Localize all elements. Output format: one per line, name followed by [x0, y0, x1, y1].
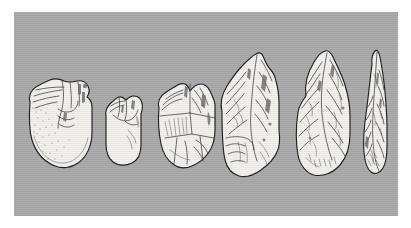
artefact-1-shadow-b [82, 92, 85, 103]
artefact-1-rounded-core-chopper [29, 79, 92, 168]
artefact-5-shadow-dot-b [309, 137, 312, 140]
artefact-drawing-canvas [14, 12, 398, 216]
artefact-1-shadow-dot [83, 84, 87, 88]
artefact-3-faceted-angular-core [158, 84, 215, 168]
artefact-2-outline [106, 96, 143, 165]
artefact-4-shadow-dot-b [263, 139, 266, 142]
artefact-4-shadow-dot-a [268, 122, 271, 125]
artefact-5-teardrop-handaxe [297, 51, 351, 176]
artefact-1-shadow-a [78, 84, 81, 95]
artefact-2-small-blocky-flake [106, 96, 143, 165]
artefact-6-lanceolate-point-blade [364, 50, 387, 173]
figure-root: Scanned plate on a grey background showi… [0, 0, 411, 228]
artefact-4-pointed-biface-handaxe [221, 53, 279, 177]
artefact-plate [14, 12, 398, 216]
artefact-5-shadow-dot-a [342, 107, 345, 110]
